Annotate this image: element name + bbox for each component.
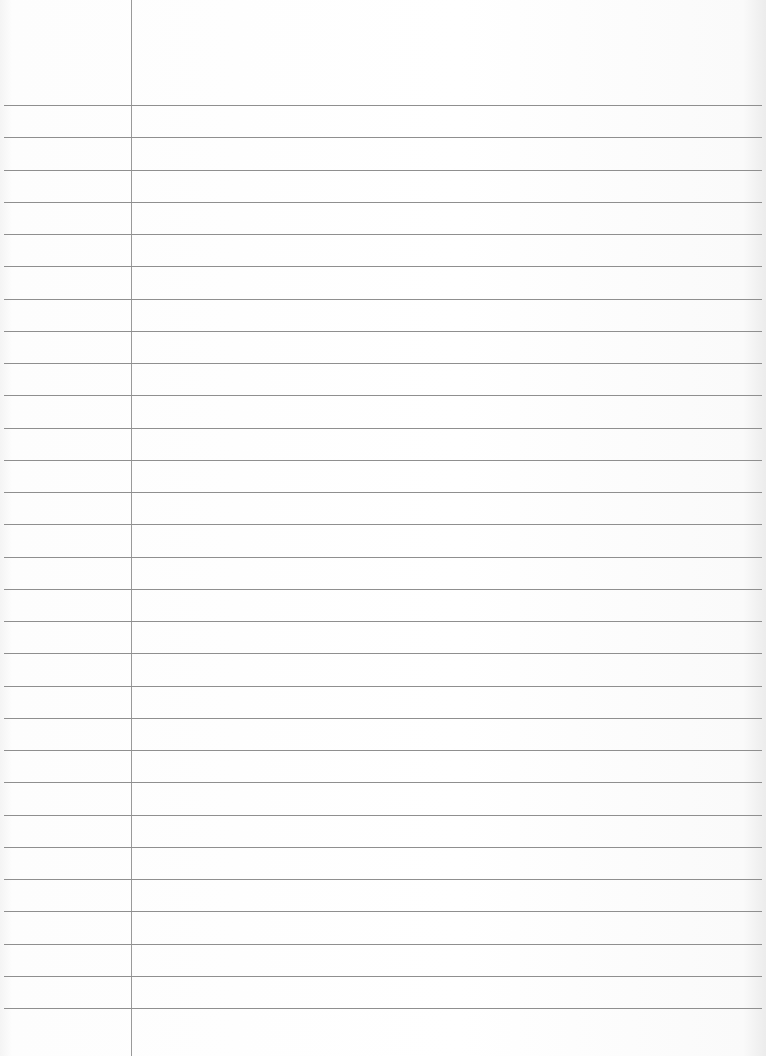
margin-line xyxy=(131,0,132,1056)
ruled-line xyxy=(4,460,762,461)
lined-paper-sheet xyxy=(0,0,766,1056)
ruled-line xyxy=(4,815,762,816)
ruled-line xyxy=(4,170,762,171)
ruled-line xyxy=(4,718,762,719)
ruled-line xyxy=(4,557,762,558)
ruled-line xyxy=(4,1008,762,1009)
ruled-line xyxy=(4,234,762,235)
ruled-line xyxy=(4,782,762,783)
ruled-line xyxy=(4,137,762,138)
ruled-line xyxy=(4,105,762,106)
ruled-line xyxy=(4,847,762,848)
ruled-line xyxy=(4,395,762,396)
ruled-line xyxy=(4,331,762,332)
ruled-line xyxy=(4,524,762,525)
ruled-line xyxy=(4,363,762,364)
ruled-line xyxy=(4,653,762,654)
ruled-line xyxy=(4,266,762,267)
ruled-line xyxy=(4,428,762,429)
ruled-line xyxy=(4,621,762,622)
ruled-line xyxy=(4,911,762,912)
ruled-line xyxy=(4,976,762,977)
ruled-line xyxy=(4,879,762,880)
ruled-line xyxy=(4,492,762,493)
ruled-line xyxy=(4,686,762,687)
ruled-line xyxy=(4,589,762,590)
ruled-line xyxy=(4,299,762,300)
ruled-line xyxy=(4,944,762,945)
ruled-line xyxy=(4,750,762,751)
ruled-line xyxy=(4,202,762,203)
